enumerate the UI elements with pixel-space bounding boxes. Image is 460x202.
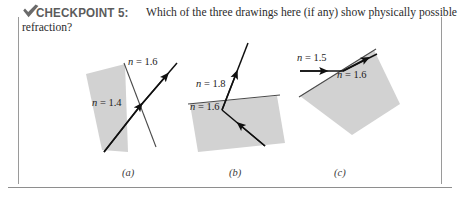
interface-line-a bbox=[124, 63, 156, 147]
medium-block-a bbox=[86, 64, 128, 152]
refracted-ray-a-ext bbox=[141, 63, 177, 105]
refraction-drawings: n = 1.6 n = 1.4 n = 1.8 n = 1.6 n = 1.5 … bbox=[0, 0, 460, 202]
checkpoint-figure-page: CHECKPOINT 5: Which of the three drawing… bbox=[0, 0, 460, 202]
index-label-b-inside: n = 1.6 bbox=[190, 101, 220, 112]
drawing-b bbox=[188, 43, 285, 152]
panel-caption-b: (b) bbox=[229, 167, 241, 178]
panel-caption-c: (c) bbox=[334, 167, 346, 178]
index-label-a-outside: n = 1.6 bbox=[128, 56, 158, 67]
panel-caption-a: (a) bbox=[122, 167, 134, 178]
index-label-b-outside: n = 1.8 bbox=[196, 78, 226, 89]
index-label-a-inside: n = 1.4 bbox=[92, 97, 122, 108]
index-label-c-outside: n = 1.5 bbox=[297, 52, 327, 63]
index-label-c-inside: n = 1.6 bbox=[337, 69, 367, 80]
